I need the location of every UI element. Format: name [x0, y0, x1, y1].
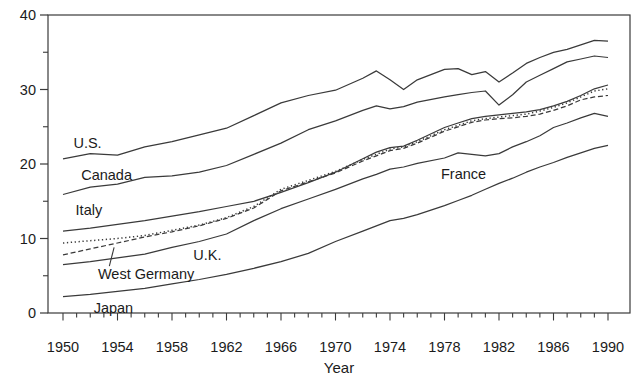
x-axis-title: Year	[324, 359, 354, 376]
series-label-u-s: U.S.	[73, 135, 101, 151]
west-germany-pointer-line	[109, 247, 114, 266]
series-label-france: France	[441, 166, 486, 182]
x-tick-label: 1982	[483, 339, 515, 355]
x-tick-label: 1962	[210, 339, 242, 355]
x-tick-label: 1970	[319, 339, 351, 355]
x-tick-label: 1990	[592, 339, 624, 355]
y-tick-label: 20	[20, 156, 36, 172]
chart-figure: 0102030401950195419581962196619701974197…	[0, 0, 638, 381]
x-tick-label: 1978	[428, 339, 460, 355]
x-tick-label: 1954	[101, 339, 133, 355]
x-tick-label: 1958	[156, 339, 188, 355]
x-tick-label: 1966	[265, 339, 297, 355]
series-label-canada: Canada	[81, 167, 133, 183]
x-tick-label: 1974	[374, 339, 406, 355]
series-label-u-k: U.K.	[193, 247, 221, 263]
x-tick-label: 1986	[537, 339, 569, 355]
series-line-west-germany	[63, 96, 608, 255]
y-tick-label: 10	[20, 231, 36, 247]
y-tick-label: 30	[20, 82, 36, 98]
series-line-u-s	[63, 40, 608, 159]
line-chart-canvas: 0102030401950195419581962196619701974197…	[0, 0, 638, 381]
series-label-west-germany: West Germany	[98, 266, 195, 282]
series-line-italy	[63, 85, 608, 231]
series-line-canada	[63, 56, 608, 195]
y-tick-label: 40	[20, 7, 36, 23]
y-tick-label: 0	[28, 305, 36, 321]
series-label-japan: Japan	[94, 300, 134, 316]
x-tick-label: 1950	[47, 339, 79, 355]
series-label-italy: Italy	[76, 202, 103, 218]
